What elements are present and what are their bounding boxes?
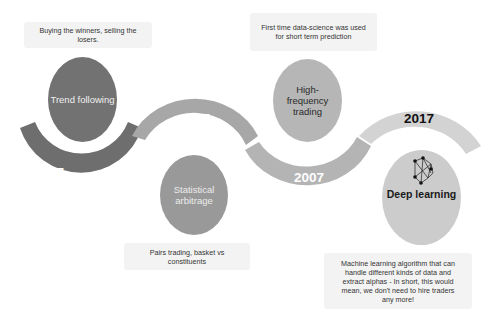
note-1997: Pairs trading, basket vs constituents bbox=[124, 243, 250, 270]
topic-deep-learning: Deep learning bbox=[387, 189, 456, 200]
topic-trend-following: Trend following bbox=[50, 94, 114, 105]
note-1997-text: Pairs trading, basket vs constituents bbox=[130, 248, 244, 266]
note-2017: Machine learning algorithm that can hand… bbox=[324, 253, 472, 309]
note-2007-text: First time data-science was used for sho… bbox=[256, 23, 371, 41]
year-2017: 2017 bbox=[404, 111, 434, 126]
topic-statistical-arbitrage: Statistical arbitrage bbox=[170, 184, 218, 206]
neural-network-icon bbox=[409, 156, 435, 186]
topic-hft-line2: frequency bbox=[287, 95, 329, 106]
topic-hft-line1: High- bbox=[296, 84, 319, 95]
note-1987: Buying the winners, selling the losers. bbox=[24, 22, 152, 48]
timeline-diagram: Buying the winners, selling the losers. … bbox=[0, 0, 500, 313]
year-1987: 1987 bbox=[34, 165, 64, 180]
year-2007: 2007 bbox=[294, 170, 324, 185]
topic-hft-line3: trading bbox=[293, 106, 322, 117]
year-1997: 1997 bbox=[180, 111, 210, 126]
bubble-trend-following: Trend following bbox=[48, 57, 117, 142]
note-2017-text: Machine learning algorithm that can hand… bbox=[336, 259, 460, 304]
bubble-deep-learning: Deep learning bbox=[382, 150, 461, 245]
bubble-high-frequency-trading: High- frequency trading bbox=[273, 59, 342, 142]
note-1987-text: Buying the winners, selling the losers. bbox=[30, 26, 146, 44]
bubble-statistical-arbitrage: Statistical arbitrage bbox=[160, 155, 228, 235]
note-2007: First time data-science was used for sho… bbox=[250, 13, 377, 51]
